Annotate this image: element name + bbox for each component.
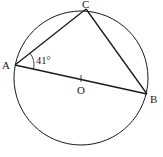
- label-a: A: [2, 59, 10, 71]
- label-c: C: [82, 0, 89, 10]
- label-b: B: [150, 93, 157, 105]
- geometry-diagram: C A B O 41°: [0, 0, 163, 157]
- label-o: O: [77, 84, 85, 96]
- angle-label: 41°: [36, 55, 51, 66]
- angle-arc-a: [30, 53, 34, 69]
